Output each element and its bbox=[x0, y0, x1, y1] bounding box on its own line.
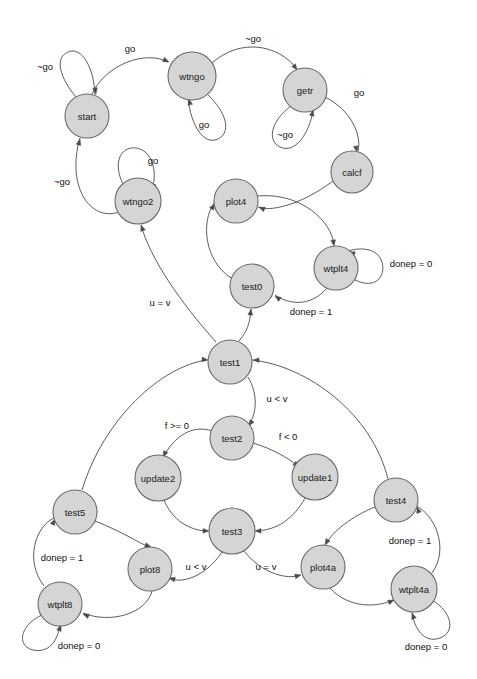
edge-label-e-test2-update1: f < 0 bbox=[279, 431, 298, 442]
arrowhead-icon bbox=[410, 612, 417, 619]
arrowhead-triangle bbox=[331, 240, 337, 247]
state-label: test2 bbox=[222, 433, 243, 444]
edge-label-e-test3-plot4a: u = v bbox=[256, 561, 277, 572]
state-label: wtplt8 bbox=[47, 599, 73, 610]
edge-label-e-wtplt4a-self: donep = 0 bbox=[405, 641, 448, 652]
state-node-start[interactable]: start bbox=[65, 94, 109, 138]
state-label: plot4 bbox=[226, 196, 247, 207]
state-label: calcf bbox=[342, 167, 362, 178]
state-node-test0[interactable]: test0 bbox=[230, 264, 274, 308]
state-node-wtplt4[interactable]: wtplt4 bbox=[314, 246, 358, 290]
state-node-test4[interactable]: test4 bbox=[374, 478, 418, 522]
state-node-test3[interactable]: test3 bbox=[209, 508, 255, 554]
arrowhead-icon bbox=[248, 309, 253, 316]
state-node-plot4[interactable]: plot4 bbox=[214, 179, 258, 223]
edge-plot8-to-wtplt8 bbox=[83, 591, 152, 617]
arrowhead-icon bbox=[295, 573, 302, 579]
edge-wtplt4-to-test0 bbox=[275, 288, 327, 302]
arrowhead-triangle bbox=[139, 224, 146, 231]
edge-calcf-to-plot4 bbox=[258, 181, 333, 209]
arrowhead-icon bbox=[274, 294, 282, 301]
state-node-update2[interactable]: update2 bbox=[135, 455, 181, 501]
state-label: plot8 bbox=[140, 564, 161, 575]
arrowhead-icon bbox=[253, 358, 259, 363]
state-node-update1[interactable]: update1 bbox=[292, 454, 338, 500]
arrowhead-icon bbox=[331, 240, 337, 247]
edge-update2-to-test3 bbox=[164, 500, 208, 531]
state-node-wtngo[interactable]: wtngo bbox=[168, 52, 216, 100]
edge-getr-to-calcf bbox=[325, 97, 359, 151]
state-label: start bbox=[78, 111, 97, 122]
arrowhead-triangle bbox=[203, 528, 209, 533]
edge-label-e-start-wtngo: go bbox=[125, 43, 136, 54]
edge-label-e-wtngo2-self: go bbox=[148, 155, 159, 166]
state-machine-diagram: startwtngogetrcalcfwtngo2plot4wtplt4test… bbox=[0, 0, 477, 679]
edge-label-e-test1-test2: u < v bbox=[267, 393, 288, 404]
state-label: update1 bbox=[298, 472, 332, 483]
nodes-layer: startwtngogetrcalcfwtngo2plot4wtplt4test… bbox=[38, 52, 437, 626]
edge-label-e-test3-plot8: u < v bbox=[186, 561, 207, 572]
state-label: test0 bbox=[242, 281, 263, 292]
arrowhead-icon bbox=[258, 205, 265, 212]
edge-test2-to-update1 bbox=[253, 443, 298, 466]
state-label: plot4a bbox=[310, 562, 337, 573]
state-label: wtngo2 bbox=[122, 196, 154, 207]
edge-start-to-start bbox=[60, 51, 95, 97]
state-label: wtplt4a bbox=[398, 584, 430, 595]
edge-label-e-wtngo-self: go bbox=[199, 119, 210, 130]
arrowhead-triangle bbox=[274, 294, 282, 301]
state-node-test1[interactable]: test1 bbox=[208, 340, 252, 384]
edge-plot4-to-wtplt4 bbox=[257, 196, 334, 245]
state-node-test2[interactable]: test2 bbox=[210, 416, 254, 460]
edge-test5-to-plot8 bbox=[95, 521, 150, 546]
arrowhead-triangle bbox=[248, 309, 253, 316]
state-label: test5 bbox=[65, 507, 86, 518]
state-label: test3 bbox=[222, 526, 243, 537]
state-label: getr bbox=[297, 85, 313, 96]
edge-label-e-wtplt8-test5: donep = 1 bbox=[41, 552, 84, 563]
arrowhead-triangle bbox=[202, 357, 208, 362]
state-label: update2 bbox=[141, 473, 175, 484]
edge-label-e-wtngo2-start: ~go bbox=[54, 176, 70, 187]
edge-update1-to-test3 bbox=[256, 498, 305, 531]
arrowhead-icon bbox=[163, 57, 170, 64]
edge-label-e-start-self: ~go bbox=[37, 61, 53, 72]
state-label: test1 bbox=[220, 357, 241, 368]
arrowhead-icon bbox=[202, 357, 208, 362]
arrowhead-triangle bbox=[258, 205, 265, 212]
edge-label-e-wtplt4-test0: donep = 1 bbox=[290, 306, 333, 317]
state-node-wtplt4a[interactable]: wtplt4a bbox=[391, 566, 437, 612]
edge-test4-to-plot4a bbox=[326, 507, 375, 544]
edge-test1-to-test2 bbox=[248, 377, 255, 425]
arrowhead-icon bbox=[255, 528, 261, 533]
state-label: wtngo bbox=[178, 71, 204, 82]
state-label: test4 bbox=[386, 495, 407, 506]
state-node-calcf[interactable]: calcf bbox=[331, 151, 373, 193]
edge-start-to-wtngo bbox=[92, 58, 168, 94]
edge-label-e-test1-wtngo2: u = v bbox=[150, 297, 171, 308]
state-node-getr[interactable]: getr bbox=[283, 68, 327, 112]
edge-label-e-getr-self: ~go bbox=[277, 129, 293, 140]
arrowhead-triangle bbox=[163, 57, 170, 64]
arrowhead-triangle bbox=[253, 358, 259, 363]
edge-wtngo2-to-start bbox=[76, 138, 119, 214]
state-node-plot8[interactable]: plot8 bbox=[128, 547, 172, 591]
edge-label-e-wtngo-getr: ~go bbox=[245, 33, 261, 44]
state-node-test5[interactable]: test5 bbox=[53, 490, 97, 534]
state-node-wtngo2[interactable]: wtngo2 bbox=[115, 178, 161, 224]
arrowhead-icon bbox=[139, 224, 146, 231]
edge-wtngo-to-getr bbox=[212, 47, 297, 69]
edge-test2-to-update2 bbox=[164, 429, 212, 456]
edge-label-e-wtplt4-self: donep = 0 bbox=[390, 258, 433, 269]
edge-label-e-test2-update2: f >= 0 bbox=[165, 420, 189, 431]
fsm-canvas: startwtngogetrcalcfwtngo2plot4wtplt4test… bbox=[0, 0, 477, 679]
arrowhead-triangle bbox=[410, 612, 417, 619]
arrowhead-triangle bbox=[295, 573, 302, 579]
state-node-wtplt8[interactable]: wtplt8 bbox=[38, 582, 82, 626]
arrowhead-triangle bbox=[255, 528, 261, 533]
edge-label-e-getr-calcf: go bbox=[354, 87, 365, 98]
edge-plot4a-to-wtplt4a bbox=[330, 588, 393, 605]
state-node-plot4a[interactable]: plot4a bbox=[301, 545, 345, 589]
arrowhead-icon bbox=[203, 528, 209, 533]
edge-test1-to-wtngo2 bbox=[141, 225, 216, 342]
